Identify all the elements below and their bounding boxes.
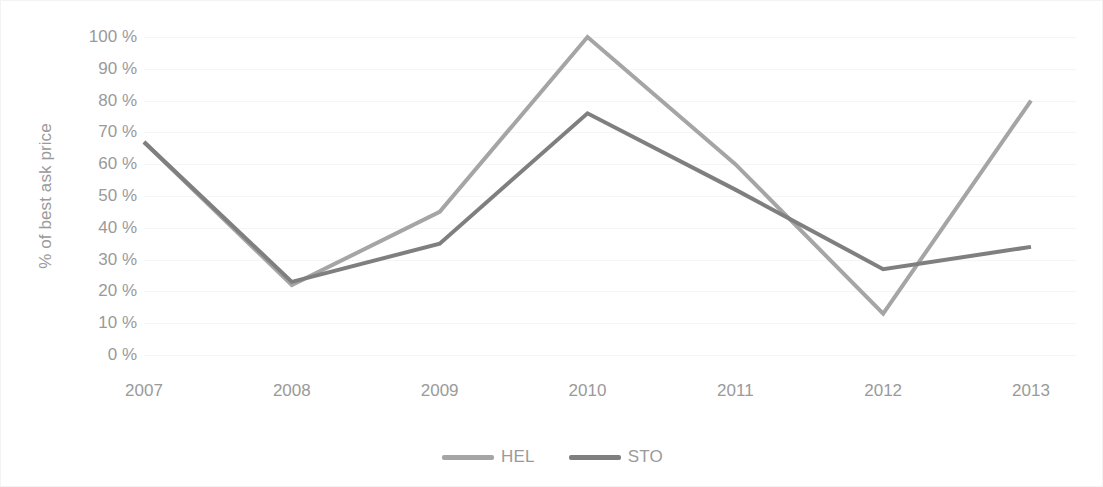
y-axis-tick-label: 70 %: [61, 122, 137, 142]
y-axis-tick-label: 0 %: [61, 345, 137, 365]
y-axis-tick-label: 30 %: [61, 250, 137, 270]
y-axis-tick-label: 10 %: [61, 313, 137, 333]
x-axis-tick-labels: 2007200820092010201120122013: [144, 381, 1031, 405]
y-axis-tick-label: 100 %: [61, 27, 137, 47]
series-line-sto: [144, 113, 1031, 282]
gridline: [144, 37, 1076, 38]
y-axis-title: % of best ask price: [29, 37, 63, 355]
gridline: [144, 132, 1076, 133]
legend-line-swatch-icon: [569, 455, 621, 460]
x-axis-tick-label: 2010: [543, 381, 633, 401]
y-axis-tick-label: 20 %: [61, 281, 137, 301]
gridline: [144, 260, 1076, 261]
y-axis-tick-label: 40 %: [61, 218, 137, 238]
y-axis-tick-label: 90 %: [61, 59, 137, 79]
gridlines: [144, 37, 1076, 355]
gridline: [144, 69, 1076, 70]
line-chart: % of best ask price 0 %10 %20 %30 %40 %5…: [0, 0, 1103, 487]
x-axis-tick-label: 2009: [395, 381, 485, 401]
x-axis-tick-label: 2011: [690, 381, 780, 401]
gridline: [144, 228, 1076, 229]
gridline: [144, 196, 1076, 197]
series-line-hel: [144, 37, 1031, 314]
legend-item-sto[interactable]: STO: [569, 447, 663, 467]
legend-label: HEL: [501, 447, 535, 467]
x-axis-tick-label: 2013: [986, 381, 1076, 401]
series-plot: [1, 1, 1103, 487]
legend-item-hel[interactable]: HEL: [442, 447, 535, 467]
x-axis-tick-label: 2007: [99, 381, 189, 401]
legend-label: STO: [628, 447, 663, 467]
gridline: [144, 355, 1076, 356]
gridline: [144, 323, 1076, 324]
x-axis-tick-label: 2012: [838, 381, 928, 401]
chart-legend: HELSTO: [1, 441, 1103, 473]
y-axis-tick-label: 80 %: [61, 91, 137, 111]
gridline: [144, 101, 1076, 102]
y-axis-tick-labels: 0 %10 %20 %30 %40 %50 %60 %70 %80 %90 %1…: [61, 1, 137, 487]
y-axis-tick-label: 60 %: [61, 154, 137, 174]
gridline: [144, 164, 1076, 165]
legend-line-swatch-icon: [442, 455, 494, 460]
y-axis-tick-label: 50 %: [61, 186, 137, 206]
x-axis-tick-label: 2008: [247, 381, 337, 401]
gridline: [144, 291, 1076, 292]
